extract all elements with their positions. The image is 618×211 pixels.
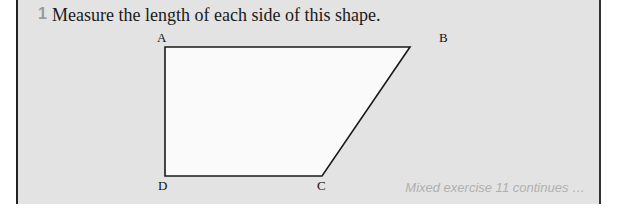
vertex-label-c: C — [317, 178, 326, 194]
vertex-label-d: D — [158, 178, 167, 194]
quadrilateral-shape — [0, 0, 618, 211]
shape-outline — [165, 47, 410, 176]
vertex-label-a: A — [157, 30, 166, 46]
vertex-label-b: B — [439, 30, 448, 46]
